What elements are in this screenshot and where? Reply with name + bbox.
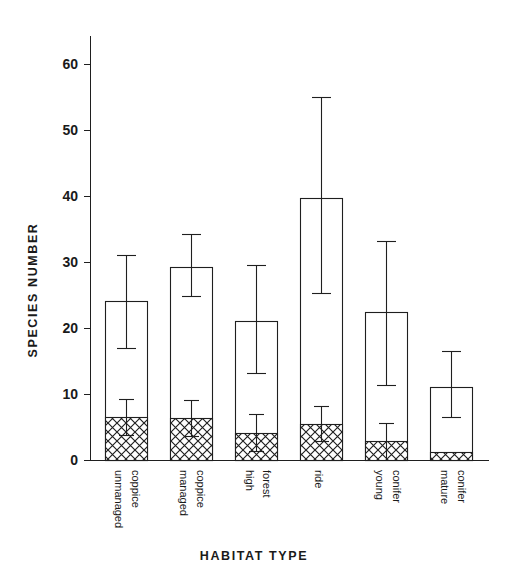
bar-group-managed-coppice[interactable]: managed coppice (171, 235, 213, 516)
x-tick-label-line: young (374, 470, 386, 500)
x-tick-label-line: mature (439, 470, 451, 504)
x-tick-label-line: high (244, 470, 256, 491)
x-tick-label-line: coppice (130, 470, 142, 508)
x-tick-label-group: young conifer (374, 470, 403, 503)
bar-group-young-conifer[interactable]: young conifer (366, 242, 408, 504)
x-tick-label-group: high forest (244, 470, 273, 498)
bar-group-ride[interactable]: ride (301, 98, 343, 489)
y-axis-ticks (84, 65, 91, 461)
y-axis: 0 10 20 30 40 50 60 SPECIES NUMBER (26, 36, 91, 468)
bar-group-mature-conifer[interactable]: mature conifer (431, 352, 473, 505)
x-axis-title: HABITAT TYPE (200, 549, 308, 563)
y-axis-title: SPECIES NUMBER (26, 223, 40, 358)
x-tick-label-line: conifer (456, 470, 468, 503)
x-tick-label-line: forest (261, 470, 273, 498)
y-tick-label: 0 (70, 452, 78, 468)
bar-group-unmanaged-coppice[interactable]: unmanaged coppice (106, 256, 148, 529)
y-tick-label: 20 (62, 320, 78, 336)
x-axis: HABITAT TYPE (91, 461, 490, 564)
x-tick-label-line: conifer (391, 470, 403, 503)
x-tick-label-line: ride (313, 470, 325, 488)
x-tick-label-group: managed coppice (178, 470, 207, 516)
y-tick-label: 60 (62, 56, 78, 72)
bar-hatched-subset[interactable] (431, 453, 473, 461)
x-tick-label-line: coppice (195, 470, 207, 508)
figure-container: 0 10 20 30 40 50 60 SPECIES NUMBER HABIT… (0, 0, 508, 581)
y-tick-label: 10 (62, 386, 78, 402)
bar-chart-svg: 0 10 20 30 40 50 60 SPECIES NUMBER HABIT… (0, 0, 508, 581)
x-tick-label-line: managed (178, 470, 190, 516)
x-tick-label-group: ride (313, 470, 325, 488)
y-tick-label: 30 (62, 254, 78, 270)
y-tick-label: 50 (62, 122, 78, 138)
y-tick-label: 40 (62, 188, 78, 204)
y-axis-tick-labels: 0 10 20 30 40 50 60 (62, 56, 78, 468)
x-tick-label-group: unmanaged coppice (113, 470, 142, 528)
x-tick-label-line: unmanaged (113, 470, 125, 528)
x-tick-label-group: mature conifer (439, 470, 468, 504)
bar-group-high-forest[interactable]: high forest (236, 266, 278, 498)
